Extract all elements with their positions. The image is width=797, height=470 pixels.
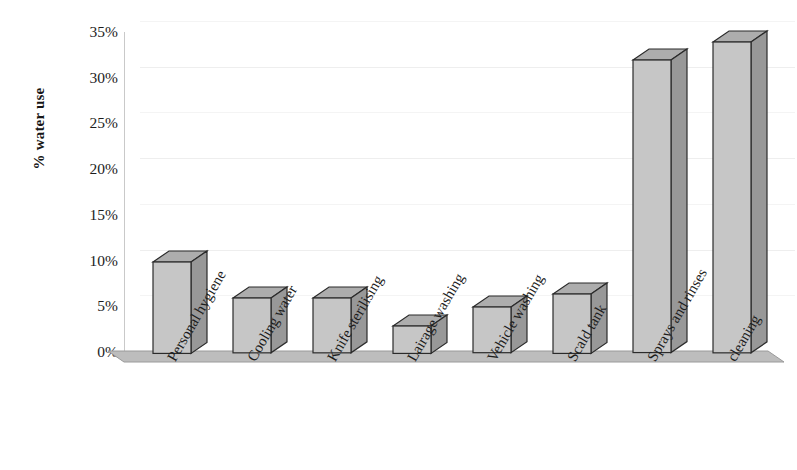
bar-chart: % water use 0%5%10%15%20%25%30%35% hygie… (0, 0, 797, 470)
y-axis-tick-labels: 0%5%10%15%20%25%30%35% (56, 0, 118, 470)
y-axis-tick-30: 30% (90, 70, 118, 86)
y-axis-tick-15: 15% (90, 207, 118, 223)
y-axis-tick-20: 20% (90, 161, 118, 177)
y-axis-tick-5: 5% (97, 298, 118, 314)
x-axis-category-labels: hygienePersonalwaterCoolingsterilisingKn… (124, 356, 797, 470)
y-axis-tick-25: 25% (90, 115, 118, 131)
y-axis-tick-10: 10% (90, 253, 118, 269)
y-axis-tick-35: 35% (90, 24, 118, 40)
bar-7 (712, 30, 768, 352)
y-axis-title: % water use (31, 54, 48, 204)
